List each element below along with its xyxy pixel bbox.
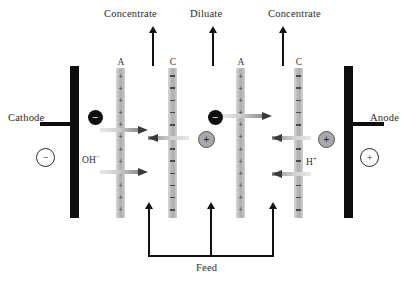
- ion-positive-left: +: [198, 131, 215, 148]
- cathode-bar: [70, 66, 79, 218]
- membrane-anion-1: ++++++++++++: [116, 68, 125, 218]
- ion-positive-right: +: [318, 131, 335, 148]
- outlet-label-concentrate-right: Concentrate: [268, 8, 321, 19]
- arrow-head: [262, 112, 272, 120]
- ion-transport-arrow-anion-right: [222, 112, 272, 119]
- hydroxide-charge: −: [96, 153, 100, 160]
- feed-label: Feed: [196, 262, 217, 273]
- hydrogen-charge: +: [313, 155, 317, 162]
- outlet-arrow-concentrate-left: [152, 32, 154, 66]
- cathode-lead: [40, 122, 72, 126]
- outlet-arrow-diluate: [212, 32, 214, 66]
- ion-transport-arrow-cation-lower-right: [272, 170, 320, 177]
- ion-transport-arrow-cation-left: [148, 134, 198, 141]
- outlet-label-diluate: Diluate: [190, 8, 222, 19]
- membrane-cation-2: [294, 68, 303, 218]
- feed-arrow-middle: [210, 208, 212, 256]
- arrow-head: [148, 134, 158, 142]
- arrow-head: [272, 134, 282, 142]
- cathode-polarity-sign: −: [36, 148, 55, 167]
- membrane-label-a2: A: [231, 57, 251, 67]
- anode-bar: [344, 66, 353, 218]
- ion-negative-right: −: [208, 110, 223, 125]
- electrodialysis-diagram: Concentrate Diluate Concentrate A C A C …: [0, 0, 418, 284]
- feed-riser-right: [272, 236, 274, 256]
- membrane-cation-1: [168, 68, 177, 218]
- arrow-tail: [100, 128, 139, 132]
- outlet-arrow-concentrate-right: [282, 32, 284, 66]
- anode-polarity-sign: +: [360, 148, 379, 167]
- hydrogen-formula: H: [306, 157, 313, 167]
- hydroxide-formula: OH: [82, 155, 96, 165]
- feed-arrow-right: [272, 208, 274, 238]
- arrow-head: [138, 168, 148, 176]
- ion-negative-left: −: [88, 110, 103, 125]
- arrow-head: [138, 126, 148, 134]
- feed-riser-left: [148, 236, 150, 256]
- membrane-label-c1: C: [163, 57, 183, 67]
- cathode-label: Cathode: [8, 112, 44, 123]
- membrane-label-c2: C: [289, 57, 309, 67]
- anode-label: Anode: [370, 112, 399, 123]
- membrane-label-a1: A: [111, 57, 131, 67]
- arrow-tail: [222, 114, 263, 118]
- hydroxide-label: OH−: [82, 153, 100, 165]
- outlet-label-concentrate-left: Concentrate: [104, 8, 157, 19]
- arrow-head: [272, 170, 282, 178]
- feed-arrow-left: [148, 208, 150, 238]
- ion-transport-arrow-anion-upper-left: [100, 126, 148, 133]
- ion-transport-arrow-anion-lower-left: [100, 168, 148, 175]
- membrane-anion-2: ++++++++++++: [236, 68, 245, 218]
- hydrogen-label: H+: [306, 155, 317, 167]
- ion-transport-arrow-cation-upper-right: [272, 134, 320, 141]
- arrow-tail: [100, 170, 139, 174]
- feed-manifold-line: [148, 255, 274, 257]
